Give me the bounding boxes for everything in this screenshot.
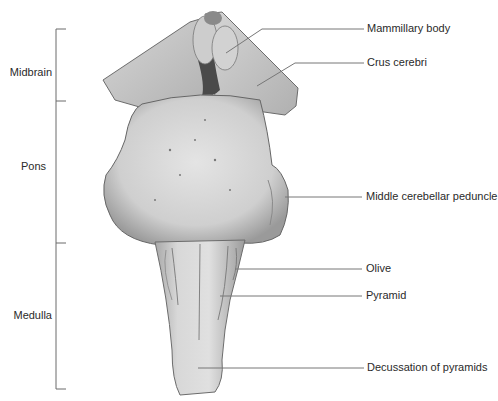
pons-specimen: [104, 95, 289, 245]
brainstem-figure: Midbrain Pons Medulla Mammillary body Cr…: [0, 0, 498, 401]
medulla-specimen: [155, 240, 245, 395]
region-bracket: [56, 29, 66, 389]
label-mammillary-body: Mammillary body: [367, 22, 450, 35]
label-crus-cerebri: Crus cerebri: [367, 56, 427, 69]
region-label-midbrain: Midbrain: [2, 66, 52, 79]
label-decussation-of-pyramids: Decussation of pyramids: [367, 361, 487, 374]
region-label-medulla: Medulla: [2, 309, 52, 322]
label-olive: Olive: [366, 262, 391, 275]
label-middle-cerebellar-peduncle: Middle cerebellar peduncle: [366, 190, 497, 203]
label-pyramid: Pyramid: [366, 289, 406, 302]
region-label-pons: Pons: [0, 160, 46, 173]
